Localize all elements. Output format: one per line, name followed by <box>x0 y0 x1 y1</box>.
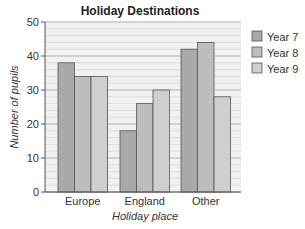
x-tick-label: England <box>125 195 165 207</box>
bar-other-year-9 <box>214 97 231 192</box>
legend-swatch <box>252 31 262 41</box>
bar-england-year-8 <box>137 104 154 192</box>
bar-other-year-7 <box>181 49 198 192</box>
x-tick-label: Other <box>192 195 220 207</box>
y-tick-label: 40 <box>27 50 39 62</box>
bar-chart: Holiday Destinations 01020304050 EuropeE… <box>0 0 305 229</box>
x-tick-labels: EuropeEnglandOther <box>65 195 220 207</box>
bar-england-year-7 <box>120 131 137 192</box>
legend-swatch <box>252 63 262 73</box>
bar-europe-year-8 <box>75 76 92 192</box>
y-tick-labels: 01020304050 <box>27 16 39 198</box>
y-tick-label: 20 <box>27 118 39 130</box>
x-axis-label: Holiday place <box>112 210 178 222</box>
bar-europe-year-7 <box>58 63 75 192</box>
bar-europe-year-9 <box>91 76 108 192</box>
y-axis-label: Number of pupils <box>8 65 20 149</box>
bar-england-year-9 <box>153 90 170 192</box>
y-tick-label: 50 <box>27 16 39 28</box>
legend: Year 7Year 8Year 9 <box>252 31 298 75</box>
y-tick-label: 0 <box>33 186 39 198</box>
x-tick-label: Europe <box>65 195 100 207</box>
legend-label: Year 7 <box>267 31 298 43</box>
legend-label: Year 8 <box>267 47 298 59</box>
legend-label: Year 9 <box>267 63 298 75</box>
chart-title: Holiday Destinations <box>81 4 200 18</box>
legend-swatch <box>252 47 262 57</box>
y-tick-label: 10 <box>27 152 39 164</box>
bar-other-year-8 <box>198 42 215 192</box>
y-tick-label: 30 <box>27 84 39 96</box>
